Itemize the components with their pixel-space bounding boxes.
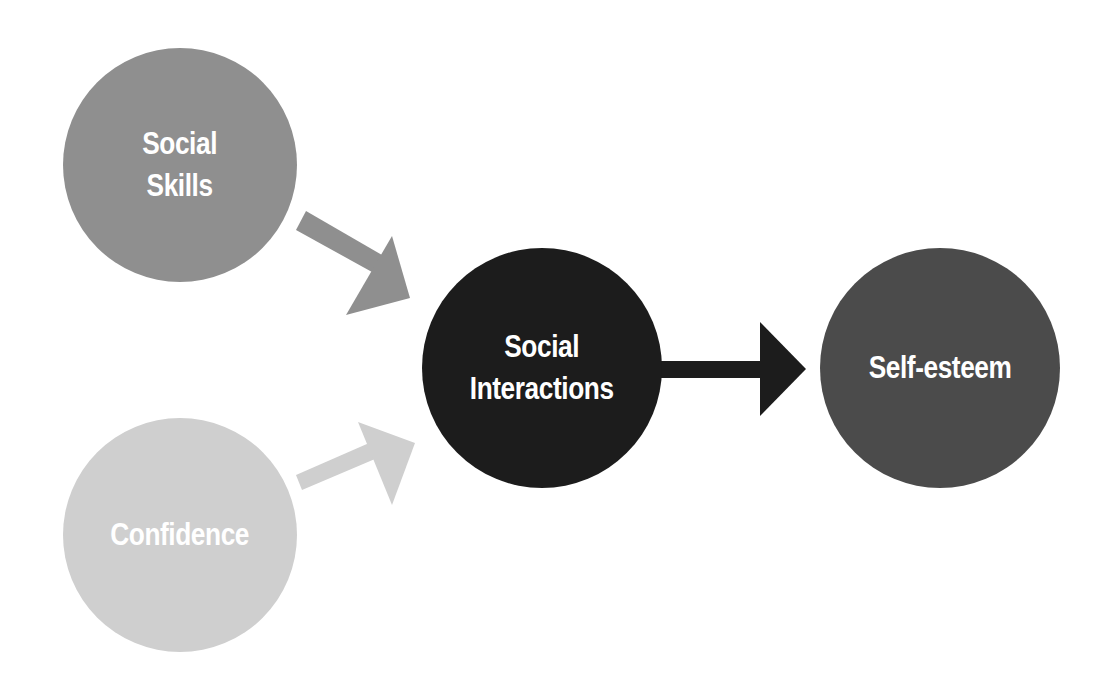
arrow-skills-to-interactions [296,211,410,315]
node-social-interactions-line1: Social [470,326,614,368]
node-confidence: Confidence [63,418,297,652]
arrow-confidence-to-interactions [296,422,415,505]
node-confidence-label: Confidence [111,515,250,554]
node-self-esteem-label: Self-esteem [869,348,1012,387]
node-social-skills-line2: Skills [143,165,218,207]
arrow-interactions-head-icon [760,322,806,416]
node-social-skills: Social Skills [63,48,297,282]
arrow-confidence-head-icon [358,422,415,505]
arrow-skills-shaft [296,211,382,272]
diagram-canvas: Social Skills Confidence Social Interact… [0,0,1120,700]
arrow-interactions-to-selfesteem [655,322,806,416]
node-social-interactions-line2: Interactions [470,368,614,410]
node-social-skills-line1: Social [143,123,218,165]
arrow-interactions-shaft [655,361,765,378]
node-social-interactions: Social Interactions [422,248,662,488]
node-self-esteem: Self-esteem [820,248,1060,488]
